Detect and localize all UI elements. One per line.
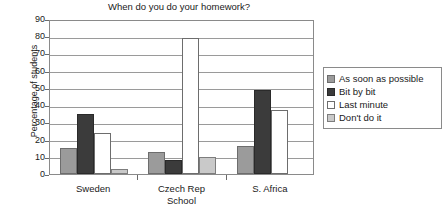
bar-group (138, 21, 226, 174)
legend-item[interactable]: Don't do it (327, 111, 437, 124)
x-axis-tick-label: Sweden (49, 183, 137, 194)
y-axis-tick-label: 70 (17, 49, 45, 58)
bar[interactable] (254, 90, 271, 174)
y-axis-tick-label: 40 (17, 101, 45, 110)
legend-swatch-icon (327, 101, 335, 109)
plot-area (49, 20, 314, 175)
y-axis-tick-label: 90 (17, 15, 45, 24)
bar[interactable] (94, 133, 111, 174)
x-axis-title: School (49, 195, 314, 206)
bar[interactable] (148, 152, 165, 174)
bar[interactable] (182, 38, 199, 174)
bar-chart: When do you do your homework? Percentage… (0, 0, 446, 224)
x-axis-tick-label: S. Africa (226, 183, 314, 194)
legend-swatch-icon (327, 75, 335, 83)
bar[interactable] (199, 157, 216, 174)
legend-item[interactable]: Last minute (327, 98, 437, 111)
legend-swatch-icon (327, 114, 335, 122)
y-axis-tick-mark (45, 175, 49, 176)
legend-label: Last minute (339, 99, 388, 110)
chart-title: When do you do your homework? (49, 1, 309, 13)
y-axis-tick-label: 20 (17, 136, 45, 145)
bar-group (227, 21, 315, 174)
y-axis-tick-label: 10 (17, 153, 45, 162)
legend-label: Don't do it (339, 112, 381, 123)
x-axis-tick-mark (137, 175, 138, 180)
x-axis-tick-label: Czech Rep (137, 183, 225, 194)
y-axis-tick-label: 0 (17, 170, 45, 179)
x-axis-tick-mark (226, 175, 227, 180)
legend: As soon as possibleBit by bitLast minute… (323, 67, 442, 129)
bar[interactable] (111, 169, 128, 174)
legend-swatch-icon (327, 88, 335, 96)
y-axis-tick-label: 50 (17, 84, 45, 93)
bar-group (50, 21, 138, 174)
bar[interactable] (77, 114, 94, 174)
bar[interactable] (271, 110, 288, 174)
bar[interactable] (60, 148, 77, 174)
bars-layer (50, 21, 313, 174)
y-axis-tick-label: 60 (17, 67, 45, 76)
bar[interactable] (165, 160, 182, 174)
bar[interactable] (237, 146, 254, 174)
legend-label: Bit by bit (339, 86, 375, 97)
y-axis-tick-label: 30 (17, 118, 45, 127)
legend-item[interactable]: Bit by bit (327, 85, 437, 98)
y-axis-tick-label: 80 (17, 32, 45, 41)
legend-label: As soon as possible (339, 73, 424, 84)
legend-item[interactable]: As soon as possible (327, 72, 437, 85)
